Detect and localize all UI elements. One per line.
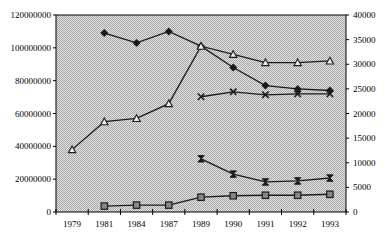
left-y-tick-label: 100000000 [11,43,52,53]
right-y-tick-label: 15000 [353,133,376,143]
left-y-tick-label: 80000000 [15,76,52,86]
dual-axis-line-chart: 0200000004000000060000000800000001000000… [0,0,387,242]
x-tick-label: 1991 [256,219,274,229]
square-marker-icon [101,203,107,209]
right-y-tick-label: 25000 [353,84,376,94]
x-tick-label: 1984 [128,219,147,229]
left-y-tick-label: 120000000 [11,10,52,20]
square-marker-icon [166,202,172,208]
square-marker-icon [294,192,300,198]
right-y-tick-label: 35000 [353,35,376,45]
left-y-tick-label: 40000000 [15,141,52,151]
right-y-tick-label: 0 [353,207,358,217]
right-y-tick-label: 5000 [353,182,372,192]
x-tick-label: 1981 [95,219,113,229]
square-marker-icon [327,191,333,197]
x-tick-label: 1990 [224,219,243,229]
left-y-tick-label: 60000000 [15,109,52,119]
square-marker-icon [262,192,268,198]
right-y-tick-label: 30000 [353,59,376,69]
x-tick-label: 1989 [192,219,211,229]
x-tick-label: 1979 [63,219,82,229]
right-y-tick-label: 40000 [353,10,376,20]
x-tick-label: 1992 [289,219,307,229]
square-marker-icon [133,202,139,208]
x-tick-label: 1993 [321,219,340,229]
x-tick-label: 1987 [160,219,179,229]
left-y-tick-label: 0 [47,207,52,217]
right-y-tick-label: 20000 [353,109,376,119]
square-marker-icon [230,193,236,199]
left-y-tick-label: 20000000 [15,174,52,184]
right-y-tick-label: 10000 [353,158,376,168]
square-marker-icon [198,194,204,200]
